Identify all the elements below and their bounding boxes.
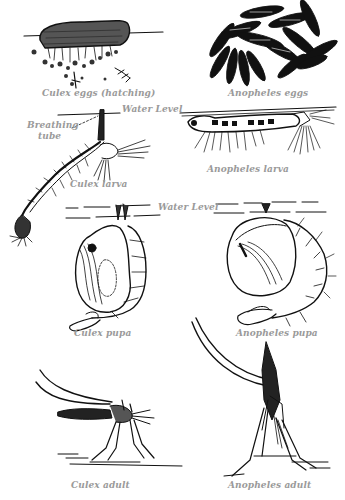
- label-water-level-pupa: Water Level: [158, 202, 218, 212]
- label-culex-pupa: Culex pupa: [74, 328, 131, 338]
- culex-egg-raft: [24, 21, 163, 88]
- label-breathing-tube-2: tube: [38, 131, 61, 141]
- label-anopheles-larva: Anopheles larva: [207, 164, 289, 174]
- label-culex-eggs: Culex eggs (hatching): [42, 88, 155, 98]
- culex-adult-drawing: [36, 370, 182, 466]
- figure-drawing: [0, 0, 345, 500]
- label-anopheles-adult: Anopheles adult: [228, 480, 311, 490]
- label-culex-adult: Culex adult: [71, 480, 130, 490]
- anopheles-egg-cluster: [206, 0, 339, 87]
- figure-caption-cropped: [145, 492, 215, 500]
- culex-larva-drawing: [10, 110, 150, 246]
- label-breathing-tube-1: Breathing: [27, 120, 79, 130]
- label-anopheles-eggs: Anopheles eggs: [228, 88, 308, 98]
- label-anopheles-pupa: Anopheles pupa: [236, 328, 318, 338]
- culex-pupa-drawing: [66, 204, 160, 331]
- mosquito-lifecycle-figure: Culex eggs (hatching) Anopheles eggs Wat…: [0, 0, 345, 500]
- label-culex-larva: Culex larva: [70, 179, 128, 189]
- label-water-level-larva: Water Level: [122, 104, 182, 114]
- anopheles-larva-drawing: [180, 107, 336, 154]
- anopheles-adult-drawing: [192, 318, 330, 476]
- anopheles-pupa-drawing: [214, 202, 336, 326]
